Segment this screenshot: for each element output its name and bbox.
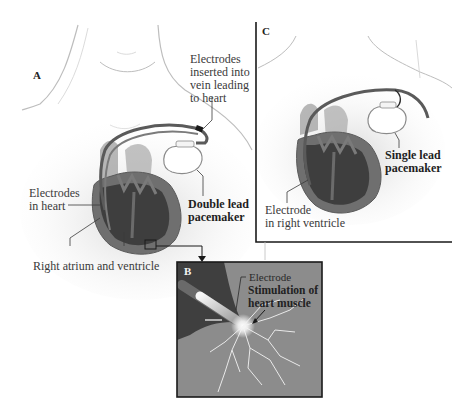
panel-label-a: A — [33, 69, 41, 81]
left-neck-shadow-line — [58, 28, 88, 104]
jaw-line — [117, 52, 136, 54]
label-line: in heart — [29, 200, 80, 213]
septum — [132, 192, 134, 238]
pacemaker-header-c — [380, 102, 396, 108]
left-neck-outline — [22, 25, 78, 110]
label-stimulation-heart-muscle: Stimulation of heart muscle — [248, 284, 318, 310]
label-electrode-b: Electrode — [249, 271, 291, 284]
label-line: to heart — [190, 92, 250, 105]
panel-label-b: B — [184, 265, 191, 277]
chin-outline — [100, 62, 155, 72]
label-single-lead-pacemaker: Single lead pacemaker — [385, 149, 442, 175]
label-electrode-right-ventricle: Electrode in right ventricle — [265, 204, 345, 230]
label-double-lead-pacemaker: Double lead pacemaker — [188, 198, 249, 224]
label-right-atrium-ventricle: Right atrium and ventricle — [33, 260, 159, 273]
label-line: pacemaker — [385, 162, 442, 175]
double-lead-pacemaker — [164, 145, 202, 174]
label-line: pacemaker — [188, 211, 249, 224]
label-line: in right ventricle — [265, 217, 345, 230]
label-electrodes-inserted-vein: Electrodes inserted into vein leading to… — [190, 53, 250, 105]
label-line: heart muscle — [248, 297, 318, 310]
label-electrodes-in-heart: Electrodes in heart — [29, 187, 80, 213]
pacemaker-header-a — [176, 141, 194, 147]
panel-label-c: C — [262, 25, 270, 37]
label-line: Stimulation of — [248, 284, 318, 297]
pacemaker-figure: A B C Electrodes inserted into vein lead… — [0, 0, 456, 418]
panel-c-septum — [332, 152, 334, 200]
single-lead-pacemaker — [368, 106, 406, 134]
